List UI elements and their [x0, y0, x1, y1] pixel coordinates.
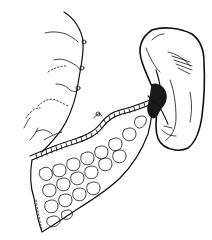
- splenic-artery: [30, 100, 152, 160]
- anatomical-illustration: [0, 0, 212, 240]
- stomach-drawing: [24, 12, 86, 152]
- spleen-drawing: [140, 28, 204, 150]
- splenic-hilum-vessels: [147, 70, 168, 124]
- pancreas-drawing: [31, 110, 152, 232]
